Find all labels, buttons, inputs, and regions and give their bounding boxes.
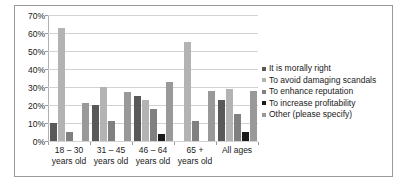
legend-swatch-icon — [262, 67, 266, 71]
bar — [58, 28, 65, 141]
bar-group — [134, 15, 173, 141]
bar — [82, 103, 89, 141]
y-axis-tick-mark — [45, 15, 48, 16]
plot-area: 0%10%20%30%40%50%60%70% — [48, 16, 258, 142]
bar — [234, 114, 241, 141]
chart-legend: It is morally rightTo avoid damaging sca… — [262, 63, 390, 121]
plot-canvas: 0%10%20%30%40%50%60%70% — [48, 16, 258, 142]
legend-item[interactable]: Other (please specify) — [262, 109, 390, 120]
y-axis-tick-mark — [45, 69, 48, 70]
bar — [208, 91, 215, 141]
bar — [242, 132, 249, 141]
x-axis-label: All ages — [216, 145, 258, 156]
bar — [92, 105, 99, 141]
bar — [226, 89, 233, 141]
x-axis-label-line: 31 – 45 — [90, 145, 132, 156]
legend-item-label: To avoid damaging scandals — [269, 75, 376, 86]
x-axis-label-line: years old — [48, 156, 90, 167]
bar — [158, 134, 165, 141]
x-axis-label: 65 +years old — [174, 145, 216, 167]
legend-item-label: To increase profitability — [269, 98, 355, 109]
legend-swatch-icon — [262, 78, 266, 82]
bar — [192, 121, 199, 141]
legend-item[interactable]: To enhance reputation — [262, 86, 390, 97]
bar-group — [50, 15, 89, 141]
legend-item[interactable]: To avoid damaging scandals — [262, 75, 390, 86]
bar — [218, 100, 225, 141]
x-axis-label-line: years old — [174, 156, 216, 167]
x-axis-label-line: 46 – 64 — [132, 145, 174, 156]
bar — [166, 82, 173, 141]
chart-figure: 0%10%20%30%40%50%60%70% 18 – 30years old… — [14, 5, 393, 177]
y-axis-tick-label: 30% — [28, 84, 45, 93]
bar — [50, 123, 57, 141]
bar — [142, 100, 149, 141]
y-axis-tick-label: 20% — [28, 102, 45, 111]
x-axis-label-line: 65 + — [174, 145, 216, 156]
legend-item-label: Other (please specify) — [269, 109, 352, 120]
x-axis-label: 18 – 30years old — [48, 145, 90, 167]
bar — [134, 96, 141, 141]
x-axis-label-line: years old — [132, 156, 174, 167]
legend-item-label: It is morally right — [269, 63, 331, 74]
bar — [150, 109, 157, 141]
y-axis-tick-label: 60% — [28, 30, 45, 39]
x-axis-label-line: 18 – 30 — [48, 145, 90, 156]
legend-item[interactable]: It is morally right — [262, 63, 390, 74]
legend-swatch-icon — [262, 90, 266, 94]
bar — [250, 91, 257, 141]
gridline — [48, 141, 258, 142]
y-axis-tick-label: 50% — [28, 48, 45, 57]
legend-item[interactable]: To increase profitability — [262, 98, 390, 109]
x-axis-label-line: All ages — [216, 145, 258, 156]
y-axis-tick-mark — [45, 123, 48, 124]
bar-group — [176, 15, 215, 141]
x-axis-tick-mark — [258, 142, 259, 145]
bar — [66, 132, 73, 141]
x-axis-label: 46 – 64years old — [132, 145, 174, 167]
y-axis-tick-label: 40% — [28, 66, 45, 75]
bar-group — [218, 15, 257, 141]
y-axis-tick-label: 10% — [28, 120, 45, 129]
y-axis-tick-mark — [45, 105, 48, 106]
x-axis-labels: 18 – 30years old31 – 45years old46 – 64y… — [48, 145, 258, 173]
legend-swatch-icon — [262, 101, 266, 105]
y-axis-tick-label: 70% — [28, 12, 45, 21]
bar — [124, 92, 131, 141]
y-axis-tick-mark — [45, 51, 48, 52]
bar-group — [92, 15, 131, 141]
legend-swatch-icon — [262, 113, 266, 117]
y-axis-tick-label: 0% — [33, 138, 45, 147]
legend-item-label: To enhance reputation — [269, 86, 353, 97]
bar — [100, 87, 107, 141]
x-axis-label-line: years old — [90, 156, 132, 167]
y-axis-tick-mark — [45, 87, 48, 88]
bar — [108, 121, 115, 141]
y-axis-tick-mark — [45, 33, 48, 34]
bar — [184, 42, 191, 141]
x-axis-label: 31 – 45years old — [90, 145, 132, 167]
